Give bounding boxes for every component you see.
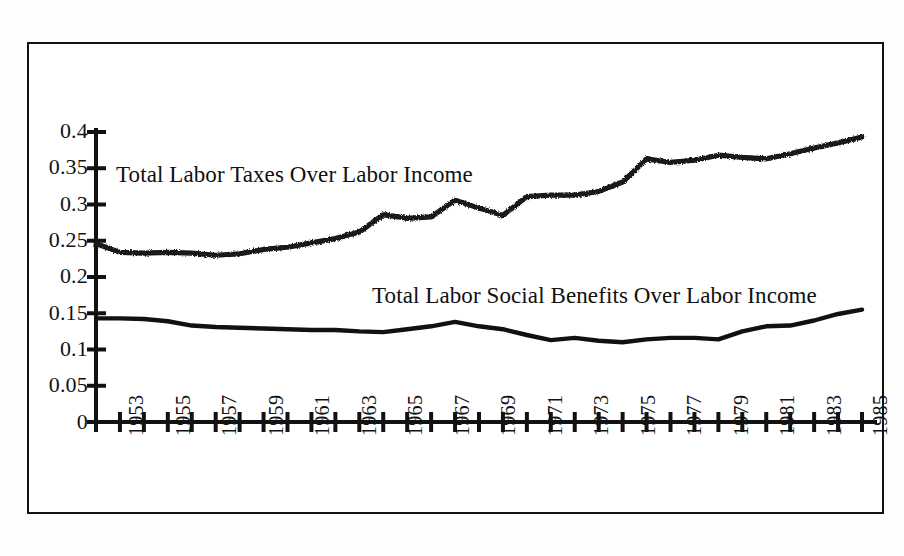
series-social-benefits-line: [96, 310, 862, 343]
plot-canvas: [0, 0, 904, 556]
series-taxes-texture: [96, 137, 862, 255]
chart-page: 0.4 0.35 0.3 0.25 0.2 0.15 0.1 0.05 0 To…: [0, 0, 904, 556]
series-taxes-line: [96, 137, 862, 255]
series-total-labor-taxes: [96, 137, 862, 255]
